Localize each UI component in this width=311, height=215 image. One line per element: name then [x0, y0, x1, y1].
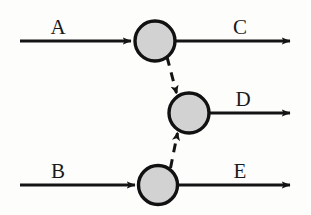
edge-e-label: E: [234, 159, 247, 183]
edge-b-label: B: [51, 159, 65, 183]
edge-bottom-to-middle-line: [171, 133, 178, 168]
edge-c-label: C: [233, 15, 247, 39]
edge-top-to-middle-dashed: [167, 57, 177, 93]
process-diagram: A C B E D: [0, 0, 311, 215]
edge-bottom-to-middle-dashed: [171, 133, 178, 168]
edge-c: C: [174, 15, 290, 41]
diagram-canvas: A C B E D: [0, 0, 311, 215]
edge-top-to-middle-line: [167, 57, 177, 93]
edge-a: A: [20, 15, 131, 41]
top-vertex-node: [135, 21, 175, 61]
edge-d: D: [208, 87, 290, 113]
edge-d-label: D: [235, 87, 250, 111]
middle-vertex-node: [169, 93, 209, 133]
edge-e: E: [176, 159, 290, 185]
edge-a-label: A: [50, 15, 66, 39]
bottom-vertex-node: [139, 166, 178, 205]
edge-b: B: [20, 159, 135, 185]
